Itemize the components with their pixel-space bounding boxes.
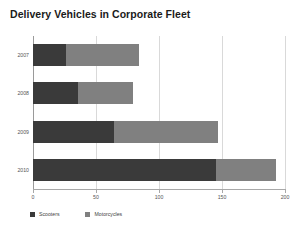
y-axis-label: 2010 bbox=[0, 167, 29, 173]
x-tick-label: 0 bbox=[32, 194, 35, 200]
legend-entry[interactable]: Scooters bbox=[30, 211, 59, 217]
x-tick-mark bbox=[285, 189, 286, 193]
chart-title: Delivery Vehicles in Corporate Fleet bbox=[10, 8, 190, 20]
x-tick-label: 50 bbox=[93, 194, 99, 200]
bar-row[interactable] bbox=[33, 121, 218, 143]
chart-legend: ScootersMotorcycles bbox=[30, 211, 122, 217]
bar-segment-scooters[interactable] bbox=[33, 82, 78, 104]
x-tick-label: 150 bbox=[218, 194, 227, 200]
y-axis-label: 2008 bbox=[0, 90, 29, 96]
legend-label: Scooters bbox=[39, 211, 59, 217]
bar-row[interactable] bbox=[33, 82, 133, 104]
x-tick-label: 100 bbox=[155, 194, 164, 200]
legend-swatch-icon bbox=[85, 212, 90, 217]
bar-segment-scooters[interactable] bbox=[33, 44, 66, 66]
y-axis-label: 2007 bbox=[0, 52, 29, 58]
chart-container: Delivery Vehicles in Corporate Fleet Sco… bbox=[0, 0, 304, 230]
bar-segment-scooters[interactable] bbox=[33, 121, 114, 143]
x-tick-label: 200 bbox=[281, 194, 290, 200]
legend-swatch-icon bbox=[30, 212, 35, 217]
bar-segment-motorcycles[interactable] bbox=[114, 121, 219, 143]
x-tick-mark bbox=[96, 189, 97, 193]
x-tick-mark bbox=[222, 189, 223, 193]
bar-segment-motorcycles[interactable] bbox=[66, 44, 139, 66]
bar-row[interactable] bbox=[33, 44, 139, 66]
legend-entry[interactable]: Motorcycles bbox=[85, 211, 122, 217]
x-tick-mark bbox=[33, 189, 34, 193]
y-axis-label: 2009 bbox=[0, 129, 29, 135]
bar-row[interactable] bbox=[33, 159, 276, 181]
bar-segment-scooters[interactable] bbox=[33, 159, 216, 181]
bar-segment-motorcycles[interactable] bbox=[216, 159, 276, 181]
legend-label: Motorcycles bbox=[94, 211, 122, 217]
x-gridline bbox=[285, 36, 286, 189]
x-tick-mark bbox=[159, 189, 160, 193]
bar-segment-motorcycles[interactable] bbox=[78, 82, 132, 104]
